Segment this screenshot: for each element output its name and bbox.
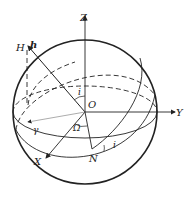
node-line	[85, 112, 92, 149]
vernal-equinox-line	[28, 112, 85, 122]
node-longitude-label: Ω	[72, 123, 81, 133]
celestial-sphere-diagram: Z Y X O h H N Ω i i γ	[0, 0, 186, 197]
inclination-top-label: i	[78, 87, 81, 97]
vernal-equinox-label: γ	[33, 125, 39, 135]
inclination-node-label: i	[113, 140, 116, 150]
h-vector	[28, 46, 85, 112]
z-axis-label: Z	[79, 12, 88, 23]
h-vector-label: h	[30, 39, 37, 50]
x-axis-label: X	[33, 156, 42, 167]
y-axis-label: Y	[176, 107, 184, 118]
h-point-label: H	[15, 42, 25, 53]
node-label: N	[88, 153, 99, 164]
origin-label: O	[88, 99, 96, 110]
